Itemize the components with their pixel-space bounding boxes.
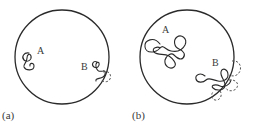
panel-label-b: (b) bbox=[132, 109, 145, 122]
chain-a-large bbox=[145, 36, 186, 68]
figure-canvas: A B (a) A B (b) bbox=[0, 0, 253, 126]
panel-label-a: (a) bbox=[2, 109, 15, 122]
boundary-circle-a bbox=[15, 10, 109, 104]
panel-b: A B (b) bbox=[132, 10, 241, 122]
label-chain-b: B bbox=[212, 57, 219, 68]
chain-b-large bbox=[196, 69, 231, 90]
panel-a: A B (a) bbox=[2, 10, 111, 122]
label-chain-b: B bbox=[81, 61, 88, 72]
label-chain-a: A bbox=[162, 24, 170, 35]
chain-a-small bbox=[23, 53, 34, 70]
label-chain-a: A bbox=[37, 45, 45, 56]
